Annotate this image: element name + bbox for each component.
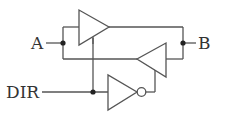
inverter-bubble-icon [137, 88, 146, 97]
label-dir: DIR [6, 82, 40, 102]
node-dir [90, 89, 95, 94]
node-b [180, 40, 185, 45]
inverter-icon [108, 75, 137, 110]
node-a [60, 40, 65, 45]
wire-dir [42, 38, 155, 92]
buffer-b-to-a-icon [137, 43, 166, 77]
label-b: B [198, 33, 211, 53]
buffer-a-to-b-icon [79, 10, 109, 45]
circuit-diagram: A B DIR [0, 0, 232, 114]
label-a: A [30, 33, 44, 53]
